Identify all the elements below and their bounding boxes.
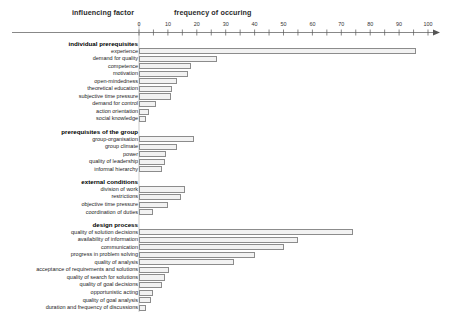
- bar-row-label: quality of search for solutions: [0, 274, 138, 282]
- bar-row[interactable]: demand for control: [0, 100, 452, 108]
- bar-row-label: informal hierarchy: [0, 166, 138, 174]
- bar-row[interactable]: division of work: [0, 186, 452, 194]
- bar-row[interactable]: subjective time pressure: [0, 93, 452, 101]
- bar-row[interactable]: communication: [0, 244, 452, 252]
- bar[interactable]: [139, 229, 353, 235]
- bar-row[interactable]: opportunistic acting: [0, 289, 452, 297]
- bar-row-label: power: [0, 151, 138, 159]
- bar-row[interactable]: quality of search for solutions: [0, 274, 452, 282]
- bar-row[interactable]: restrictions: [0, 193, 452, 201]
- bar[interactable]: [139, 151, 166, 157]
- bar[interactable]: [139, 136, 194, 142]
- bar-row[interactable]: informal hierarchy: [0, 166, 452, 174]
- bar-row-label: quality of goal analysis: [0, 297, 138, 305]
- bar[interactable]: [139, 259, 234, 265]
- bar-row-label: quality of goal decisions: [0, 281, 138, 289]
- bar-row[interactable]: objective time pressure: [0, 201, 452, 209]
- bar-row[interactable]: quality of solution decisions: [0, 229, 452, 237]
- group-heading-row: prerequisites of the group: [0, 128, 452, 136]
- bar-row-label: quality of leadership: [0, 158, 138, 166]
- influencing-factor-title: influencing factor: [72, 8, 134, 17]
- bar-row-label: duration and frequency of discussions: [0, 304, 138, 312]
- bar-row[interactable]: demand for quality: [0, 55, 452, 63]
- bar[interactable]: [139, 202, 168, 208]
- group-heading-row: external conditions: [0, 178, 452, 186]
- bar-row[interactable]: duration and frequency of discussions: [0, 304, 452, 312]
- bar[interactable]: [139, 252, 255, 258]
- bar-row[interactable]: open-mindedness: [0, 78, 452, 86]
- bar[interactable]: [139, 274, 165, 280]
- x-tick-label: 10: [165, 21, 171, 27]
- group-heading-label: prerequisites of the group: [0, 128, 138, 136]
- bar[interactable]: [139, 237, 298, 243]
- bar-row[interactable]: power: [0, 151, 452, 159]
- bar-row-label: social knowledge: [0, 115, 138, 123]
- x-tick-label: 60: [309, 21, 315, 27]
- bar[interactable]: [139, 267, 169, 273]
- bar-row-label: theoretical education: [0, 85, 138, 93]
- bar[interactable]: [139, 166, 162, 172]
- bar[interactable]: [139, 63, 191, 69]
- bar[interactable]: [139, 194, 181, 200]
- bar[interactable]: [139, 209, 153, 215]
- bar[interactable]: [139, 305, 146, 311]
- bar-row-label: progress in problem solving: [0, 251, 138, 259]
- x-tick-label: 0: [138, 21, 141, 27]
- x-tick-label: 90: [396, 21, 402, 27]
- bar[interactable]: [139, 144, 177, 150]
- bar-row-label: group climate: [0, 143, 138, 151]
- bar[interactable]: [139, 101, 156, 107]
- bar[interactable]: [139, 186, 185, 192]
- bar-row[interactable]: motivation: [0, 70, 452, 78]
- bar[interactable]: [139, 71, 188, 77]
- bar-row-label: experience: [0, 48, 138, 56]
- bar-row-label: opportunistic acting: [0, 289, 138, 297]
- bar[interactable]: [139, 56, 217, 62]
- x-tick-label: 20: [194, 21, 200, 27]
- group-heading-label: external conditions: [0, 178, 138, 186]
- x-tick-label: 100: [424, 21, 433, 27]
- bar[interactable]: [139, 93, 171, 99]
- bar-row[interactable]: quality of goal decisions: [0, 281, 452, 289]
- bar-row[interactable]: coordination of duties: [0, 208, 452, 216]
- bar-row-label: communication: [0, 244, 138, 252]
- bar[interactable]: [139, 78, 177, 84]
- bar-row[interactable]: theoretical education: [0, 85, 452, 93]
- bar-row[interactable]: acceptance of requirements and solutions: [0, 266, 452, 274]
- bar-row[interactable]: progress in problem solving: [0, 251, 452, 259]
- bar-row-label: division of work: [0, 186, 138, 194]
- bar-row-label: action orientation: [0, 108, 138, 116]
- bar[interactable]: [139, 86, 172, 92]
- bar[interactable]: [139, 290, 153, 296]
- bar-row[interactable]: competence: [0, 63, 452, 71]
- bar-row-label: objective time pressure: [0, 201, 138, 209]
- bar[interactable]: [139, 48, 416, 54]
- bar-chart: influencing factor frequency of occuring…: [0, 0, 452, 315]
- group-heading-label: individual prerequisites: [0, 40, 138, 48]
- bar-row[interactable]: availability of information: [0, 236, 452, 244]
- bar-row-label: demand for control: [0, 100, 138, 108]
- x-tick-label: 30: [223, 21, 229, 27]
- bar-row[interactable]: quality of goal analysis: [0, 297, 452, 305]
- bar-row[interactable]: quality of leadership: [0, 158, 452, 166]
- bar-row[interactable]: group-organisation: [0, 136, 452, 144]
- bar-row-label: open-mindedness: [0, 78, 138, 86]
- bar-row-label: subjective time pressure: [0, 93, 138, 101]
- bar[interactable]: [139, 116, 146, 122]
- x-tick-label: 50: [281, 21, 287, 27]
- bar-row-label: quality of solution decisions: [0, 229, 138, 237]
- bar[interactable]: [139, 297, 151, 303]
- bar-row[interactable]: experience: [0, 48, 452, 56]
- bar-row-label: coordination of duties: [0, 209, 138, 217]
- bar-row-label: acceptance of requirements and solutions: [0, 266, 138, 274]
- bar[interactable]: [139, 244, 284, 250]
- bar[interactable]: [139, 282, 162, 288]
- bar[interactable]: [139, 159, 165, 165]
- bar-row[interactable]: quality of analysis: [0, 259, 452, 267]
- x-tick-label: 70: [338, 21, 344, 27]
- frequency-axis-title: frequency of occuring: [174, 8, 252, 17]
- bar-row[interactable]: group climate: [0, 143, 452, 151]
- bar-row[interactable]: action orientation: [0, 108, 452, 116]
- bar-row[interactable]: social knowledge: [0, 115, 452, 123]
- bar[interactable]: [139, 109, 149, 115]
